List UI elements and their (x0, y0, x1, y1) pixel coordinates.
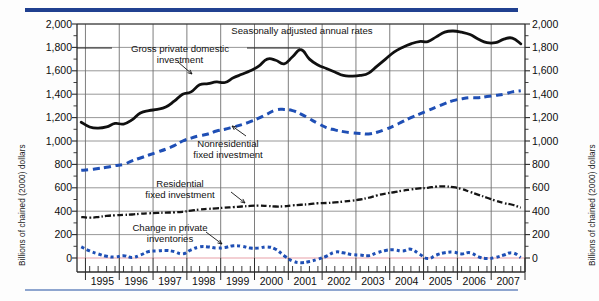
plot-area (0, 0, 599, 301)
y-tick-label-left-1800: 1,800 (20, 41, 72, 53)
y-tick-label-left-800: 800 (20, 158, 72, 170)
y-tick-label-right-1600: 1,600 (532, 64, 584, 76)
annotation-inventories-line2: inventories (110, 233, 230, 244)
y-tick-label-right-0: 0 (532, 252, 584, 264)
annotation-gross-investment: Gross private domestic investment (110, 43, 250, 66)
y-tick-label-left-0: 0 (20, 252, 72, 264)
annotation-nonresidential-line1: Nonresidential (168, 138, 288, 149)
y-tick-label-left-1200: 1,200 (20, 111, 72, 123)
annotation-gross-investment-line1: Gross private domestic (110, 43, 250, 54)
annotation-residential-line2: fixed investment (120, 189, 240, 200)
y-tick-label-right-600: 600 (532, 181, 584, 193)
annotation-nonresidential-line2: fixed investment (168, 149, 288, 160)
y-tick-label-right-800: 800 (532, 158, 584, 170)
x-tick-label-2007: 2007 (484, 275, 532, 287)
figure-root: Billions of chained (2000) dollars Billi… (0, 0, 599, 301)
y-tick-label-left-1400: 1,400 (20, 88, 72, 100)
y-tick-label-left-2000: 2,000 (20, 18, 72, 30)
y-tick-label-right-2000: 2,000 (532, 18, 584, 30)
y-tick-label-left-600: 600 (20, 181, 72, 193)
annotation-inventories: Change in private inventories (110, 222, 230, 245)
y-tick-label-right-1000: 1,000 (532, 135, 584, 147)
y-tick-label-right-400: 400 (532, 205, 584, 217)
annotation-nonresidential: Nonresidential fixed investment (168, 138, 288, 161)
y-tick-label-left-1600: 1,600 (20, 64, 72, 76)
annotation-residential: Residential fixed investment (120, 178, 240, 201)
annotation-inventories-line1: Change in private (110, 222, 230, 233)
y-tick-label-right-200: 200 (532, 228, 584, 240)
y-tick-label-right-1400: 1,400 (532, 88, 584, 100)
y-tick-label-right-1200: 1,200 (532, 111, 584, 123)
annotation-seasonal-note: Seasonally adjusted annual rates (202, 25, 402, 36)
y-tick-label-left-1000: 1,000 (20, 135, 72, 147)
y-tick-label-left-200: 200 (20, 228, 72, 240)
annotation-residential-line1: Residential (120, 178, 240, 189)
annotation-gross-investment-line2: investment (110, 54, 250, 65)
y-tick-label-right-1800: 1,800 (532, 41, 584, 53)
chart-svg (0, 0, 599, 301)
y-tick-label-left-400: 400 (20, 205, 72, 217)
